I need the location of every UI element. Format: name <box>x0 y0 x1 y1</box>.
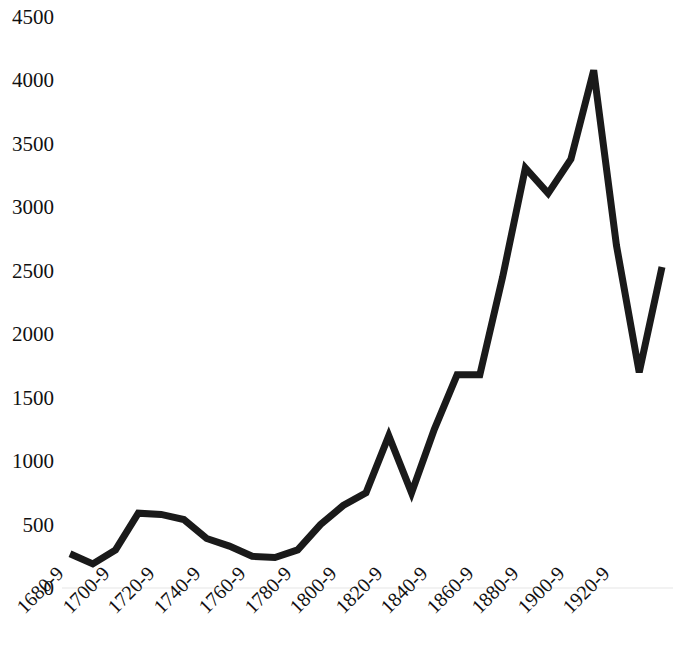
plot-svg <box>62 6 673 591</box>
y-axis-tick-label: 2000 <box>12 322 54 347</box>
data-series-line <box>70 70 662 564</box>
y-axis-tick-label: 4000 <box>12 68 54 93</box>
plot-area <box>62 6 673 591</box>
y-axis-tick-label: 1000 <box>12 449 54 474</box>
y-axis-tick-label: 3500 <box>12 131 54 156</box>
y-axis-tick-label: 500 <box>23 512 55 537</box>
y-axis-tick-label: 1500 <box>12 385 54 410</box>
y-axis-tick-label: 2500 <box>12 258 54 283</box>
y-axis: 050010001500200025003000350040004500 <box>0 0 62 600</box>
y-axis-tick-label: 3000 <box>12 195 54 220</box>
line-chart: 050010001500200025003000350040004500 168… <box>0 0 673 663</box>
x-axis: 1680-91700-91720-91740-91760-91780-91800… <box>0 592 673 663</box>
y-axis-tick-label: 4500 <box>12 5 54 30</box>
